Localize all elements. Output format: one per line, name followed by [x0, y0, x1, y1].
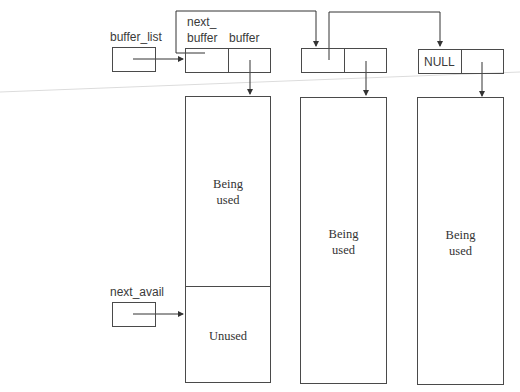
node3-buffer-cell — [461, 49, 504, 74]
scan-artifact-line — [0, 72, 520, 92]
buffer-field-label: buffer — [229, 31, 259, 45]
buffer-list-box — [112, 47, 156, 72]
node1-next-buffer-cell — [185, 48, 229, 73]
buffer1-used-unused-divider — [185, 286, 271, 287]
node3-next-buffer-cell: NULL — [418, 49, 462, 74]
node2-next-buffer-cell — [301, 48, 345, 73]
node2-buffer-cell — [344, 48, 387, 73]
next-avail-label: next_avail — [110, 285, 164, 299]
next-avail-box — [112, 302, 156, 327]
buffer1-unused-label: Unused — [185, 328, 271, 344]
null-label: NULL — [424, 55, 455, 69]
buffer3-used-label: Being used — [417, 227, 504, 259]
buffer2-used-label: Being used — [300, 226, 387, 258]
node1-buffer-cell — [228, 48, 271, 73]
next-buffer-label-line1: next_ — [187, 15, 216, 29]
buffer-list-label: buffer_list — [110, 30, 162, 44]
buffer1-used-label: Being used — [185, 176, 271, 208]
next-buffer-label-line2: buffer — [187, 31, 217, 45]
